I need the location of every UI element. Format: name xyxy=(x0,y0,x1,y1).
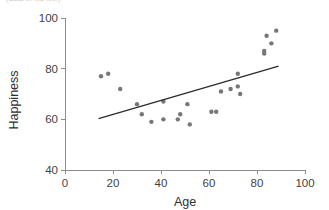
data-point xyxy=(238,92,242,96)
data-point xyxy=(188,122,192,126)
data-point xyxy=(236,72,240,76)
x-tick-label: 80 xyxy=(251,177,264,189)
y-tick-label: 40 xyxy=(45,164,58,176)
data-point xyxy=(118,87,122,91)
data-point xyxy=(106,72,110,76)
data-point xyxy=(99,74,103,78)
trend-line xyxy=(99,66,279,118)
data-point xyxy=(149,120,153,124)
x-tick-label: 100 xyxy=(295,177,314,189)
x-axis-title: Age xyxy=(174,195,196,209)
data-point xyxy=(236,84,240,88)
y-axis-ticks: 406080100 xyxy=(39,12,65,176)
scatter-points-group xyxy=(99,28,279,126)
data-point xyxy=(185,102,189,106)
data-point xyxy=(274,28,278,32)
x-axis-ticks: 020406080100 xyxy=(62,170,315,189)
data-point xyxy=(228,87,232,91)
y-axis: 406080100 Happiness xyxy=(7,12,65,176)
y-tick-label: 80 xyxy=(45,63,58,75)
x-tick-label: 0 xyxy=(62,177,68,189)
y-tick-label: 100 xyxy=(39,12,58,24)
data-point xyxy=(219,89,223,93)
x-tick-label: 60 xyxy=(203,177,216,189)
y-tick-label: 60 xyxy=(45,113,58,125)
data-point xyxy=(264,34,268,38)
clipped-caption-text: (data in file xxx) xyxy=(6,0,60,3)
data-point xyxy=(262,49,266,53)
data-point xyxy=(176,117,180,121)
x-tick-label: 40 xyxy=(155,177,168,189)
x-axis: 020406080100 Age xyxy=(62,170,315,209)
y-axis-title: Happiness xyxy=(7,70,21,129)
data-point xyxy=(140,112,144,116)
chart-canvas: 406080100 Happiness 020406080100 Age xyxy=(0,0,329,210)
data-point xyxy=(214,110,218,114)
data-point xyxy=(135,102,139,106)
x-tick-label: 20 xyxy=(107,177,120,189)
data-point xyxy=(178,112,182,116)
data-point xyxy=(269,41,273,45)
scatter-plot-figure: (data in file xxx) 406080100 Happiness 0… xyxy=(0,0,329,210)
data-point xyxy=(209,110,213,114)
data-point xyxy=(161,117,165,121)
